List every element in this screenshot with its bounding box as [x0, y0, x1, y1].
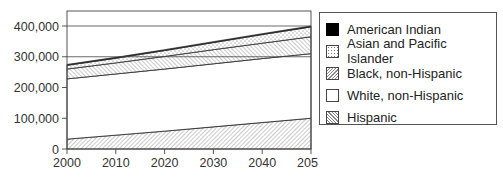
white-swatch-icon — [326, 89, 339, 102]
legend-item-hispanic: Hispanic — [326, 109, 397, 125]
legend: American Indian Asian and Pacific Island… — [319, 12, 497, 125]
dotted-swatch-icon — [326, 45, 339, 58]
solid-black-swatch-icon — [326, 23, 339, 36]
legend-label: American Indian — [347, 22, 441, 37]
x-tick-label: 2030 — [199, 156, 227, 170]
legend-label: Hispanic — [347, 110, 397, 125]
area-layers — [67, 26, 311, 149]
legend-item-black-non-hispanic: Black, non-Hispanic — [326, 65, 462, 81]
legend-label: Asian and Pacific Islander — [347, 36, 496, 66]
y-tick-label: 300,000 — [14, 50, 59, 64]
x-tick-label: 2010 — [102, 156, 130, 170]
x-tick-label: 2020 — [151, 156, 179, 170]
stacked-area-chart: 0100,000200,000300,000400,00020002010202… — [0, 0, 318, 182]
forward-hatch-swatch-icon — [326, 67, 339, 80]
x-tick-label: 2040 — [248, 156, 276, 170]
y-tick-label: 400,000 — [14, 20, 59, 34]
x-tick-label: 2000 — [53, 156, 81, 170]
legend-label: White, non-Hispanic — [347, 88, 463, 103]
back-hatch-swatch-icon — [326, 111, 339, 124]
y-tick-label: 0 — [52, 143, 59, 157]
y-tick-label: 200,000 — [14, 81, 59, 95]
legend-item-american-indian: American Indian — [326, 21, 441, 37]
legend-label: Black, non-Hispanic — [347, 66, 462, 81]
legend-item-asian-pacific-islander: Asian and Pacific Islander — [326, 43, 496, 59]
legend-item-white-non-hispanic: White, non-Hispanic — [326, 87, 463, 103]
y-tick-label: 100,000 — [14, 112, 59, 126]
x-tick-label: 2050 — [297, 156, 318, 170]
